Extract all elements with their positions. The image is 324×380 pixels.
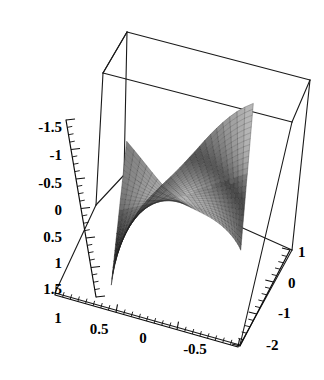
x-axis-ticks <box>55 287 240 347</box>
z-axis-minor-tick <box>79 193 84 194</box>
surface-patch <box>238 187 242 193</box>
z-tick-label: -1.5 <box>38 119 62 135</box>
surface-patch <box>239 209 242 215</box>
z-axis-minor-tick <box>74 163 79 164</box>
z-axis-major-tick <box>81 208 90 209</box>
x-axis-major-tick <box>177 322 179 330</box>
z-axis-minor-tick <box>87 244 92 245</box>
surface-mesh <box>111 103 253 285</box>
x-tick-label: 0 <box>139 330 147 346</box>
y-axis-minor-tick <box>258 300 263 301</box>
z-tick-label: -1 <box>50 147 63 163</box>
y-tick-label: 1 <box>298 244 306 260</box>
z-axis-major-tick <box>71 149 80 150</box>
y-axis-minor-tick <box>245 326 250 327</box>
z-axis-minor-tick <box>85 230 90 231</box>
y-tick-label: -2 <box>266 337 279 353</box>
y-tick-label: -1 <box>278 305 291 321</box>
z-axis-major-tick <box>66 119 75 120</box>
z-tick-label: 0.5 <box>43 229 62 245</box>
z-axis-minor-tick <box>77 185 82 186</box>
z-axis-minor-tick <box>69 134 74 135</box>
y-axis-minor-tick <box>248 319 253 320</box>
z-axis-minor-tick <box>89 252 94 253</box>
y-tick-label: 0 <box>288 275 296 291</box>
surface-plot-figure: -1.5-1-0.500.511.5 10.50-0.5 10-1-2 <box>0 0 324 380</box>
z-axis-minor-tick <box>75 171 80 172</box>
y-axis-line <box>240 250 290 346</box>
z-axis-minor-tick <box>67 126 72 127</box>
surface-patch <box>238 192 242 198</box>
box-edge-corner-left <box>103 32 127 73</box>
y-axis-minor-tick <box>265 287 270 288</box>
box-edge-vertical-right-back <box>292 80 310 250</box>
z-tick-label: 0 <box>55 202 63 218</box>
z-axis-minor-tick <box>70 141 75 142</box>
box-edge-vertical-left-rear <box>96 73 103 205</box>
z-axis-minor-tick <box>92 274 97 275</box>
y-axis-minor-tick <box>262 294 267 295</box>
y-axis-minor-tick <box>255 306 260 307</box>
z-tick-label: -0.5 <box>38 175 62 191</box>
y-axis-ticks <box>232 248 290 346</box>
box-edge-top-rear <box>127 32 310 80</box>
z-axis-minor-tick <box>72 156 77 157</box>
z-axis-minor-tick <box>90 259 95 260</box>
surface-patch <box>235 193 239 199</box>
z-axis-minor-tick <box>82 215 87 216</box>
y-axis-minor-tick <box>275 268 280 269</box>
x-tick-label: 1 <box>54 310 62 326</box>
z-axis-minor-tick <box>80 200 85 201</box>
box-edge-top-front <box>103 73 292 122</box>
box-edge-left-panel-mid <box>96 175 124 205</box>
y-axis-minor-tick <box>278 262 283 263</box>
x-tick-label: 0.5 <box>90 321 109 337</box>
z-axis-minor-tick <box>95 289 100 290</box>
y-axis-minor-tick <box>282 255 287 256</box>
z-axis-minor-tick <box>94 281 99 282</box>
z-axis-major-tick <box>96 296 105 297</box>
z-axis-major-tick <box>91 267 100 268</box>
z-tick-label: 1.5 <box>43 281 62 297</box>
surface-patch <box>230 188 235 194</box>
y-axis <box>232 248 290 346</box>
surface-patch <box>239 204 242 210</box>
z-axis-tick-labels: -1.5-1-0.500.511.5 <box>38 119 62 297</box>
surface-plot-canvas: -1.5-1-0.500.511.5 10.50-0.5 10-1-2 <box>0 0 324 380</box>
z-tick-label: 1 <box>55 255 63 271</box>
y-axis-major-tick <box>249 312 257 314</box>
y-axis-minor-tick <box>272 274 277 275</box>
z-axis-major-tick <box>76 178 85 179</box>
surface-patch <box>239 198 243 204</box>
y-axis-major-tick <box>265 280 273 282</box>
x-axis-major-tick <box>116 304 118 312</box>
z-axis-major-tick <box>86 237 95 238</box>
surface-patch <box>235 198 239 203</box>
x-axis-tick-labels: 10.50-0.5 <box>54 310 207 357</box>
x-tick-label: -0.5 <box>183 341 207 357</box>
x-axis <box>55 287 240 347</box>
